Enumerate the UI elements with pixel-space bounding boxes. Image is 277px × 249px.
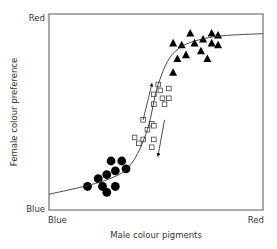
circle-marker bbox=[111, 182, 120, 191]
arrow-up-icon bbox=[143, 85, 152, 120]
plot-area bbox=[49, 29, 263, 197]
square-marker bbox=[167, 96, 172, 101]
triangle-marker bbox=[197, 47, 205, 55]
circle-marker bbox=[102, 170, 111, 179]
y-axis-title: Female colour preference bbox=[9, 58, 19, 166]
triangle-marker bbox=[214, 31, 222, 39]
square-marker bbox=[149, 145, 154, 150]
y-tick-top: Red bbox=[29, 13, 45, 23]
y-tick-bottom: Blue bbox=[26, 204, 45, 214]
square-marker bbox=[158, 88, 163, 93]
plot-frame bbox=[49, 14, 263, 210]
square-marker bbox=[152, 123, 157, 128]
square-marker bbox=[132, 135, 137, 140]
triangle-marker bbox=[186, 29, 194, 37]
circle-marker bbox=[107, 157, 116, 166]
arrow-down-icon bbox=[158, 120, 164, 155]
square-marker bbox=[167, 86, 172, 91]
triangle-marker bbox=[169, 68, 177, 76]
circle-marker bbox=[117, 157, 126, 166]
triangle-marker bbox=[203, 54, 211, 62]
triangle-marker bbox=[169, 39, 177, 47]
x-tick-right: Red bbox=[248, 215, 264, 225]
square-marker bbox=[152, 137, 157, 142]
preference-curve bbox=[49, 34, 263, 195]
triangle-marker bbox=[173, 54, 181, 62]
triangle-marker bbox=[208, 39, 216, 47]
triangle-marker bbox=[208, 29, 216, 37]
square-marker bbox=[160, 96, 165, 101]
triangle-marker bbox=[214, 41, 222, 49]
scatter-chart: Red Blue Blue Red Male colour pigments F… bbox=[0, 0, 277, 249]
square-marker bbox=[162, 102, 167, 107]
circle-marker bbox=[111, 166, 120, 175]
triangle-marker bbox=[182, 51, 190, 59]
circle-marker bbox=[102, 188, 111, 197]
x-axis-title: Male colour pigments bbox=[110, 230, 202, 240]
x-tick-left: Blue bbox=[48, 215, 67, 225]
square-marker bbox=[137, 141, 142, 146]
